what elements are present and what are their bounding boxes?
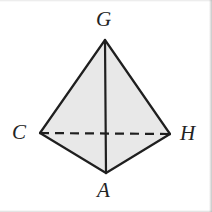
tetrahedron-figure: G C H A — [0, 0, 212, 212]
vertex-label-h: H — [180, 123, 195, 144]
edge-g-a — [105, 40, 106, 173]
vertex-label-c: C — [12, 122, 26, 143]
vertex-label-g: G — [96, 9, 111, 30]
vertex-label-a: A — [97, 180, 110, 201]
